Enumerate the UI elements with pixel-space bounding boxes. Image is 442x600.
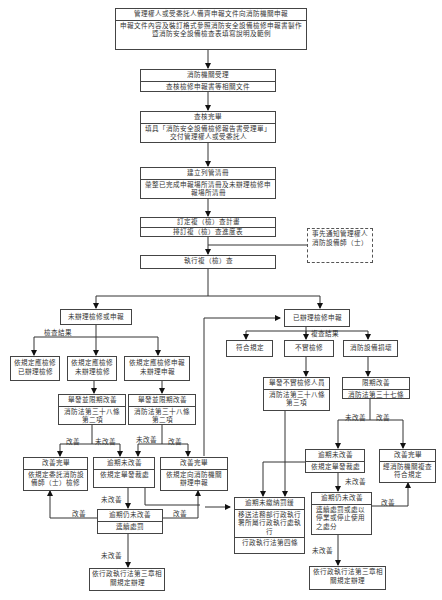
box-compliant: 符合規定 (226, 340, 273, 357)
box-title: 管理權人或受委託人備齊申報文件向消防機關申報 (116, 9, 306, 20)
box-equipment-damaged: 消防設備損壞 (343, 340, 398, 357)
box-cite-deadline-b: 舉發並限期改善 消防法第三十八條第二項 (58, 394, 126, 425)
box-title: 建立列管清冊 (141, 168, 275, 179)
box-body: 經消防機關複查符合規定 (380, 461, 435, 481)
box-improved-right: 改善完畢 經消防機關複查符合規定 (379, 449, 436, 483)
label-improved: 改善 (66, 438, 80, 446)
label-not-improved: 未改善 (345, 414, 366, 422)
box-title: 逾期未繳納罰鍰 (235, 498, 304, 509)
box-body: 消防法第三十八條第二項 (59, 406, 125, 426)
box-title: 逾期仍未改善 (312, 493, 371, 504)
label-improved: 改善 (168, 438, 182, 446)
box-improved-a: 改善完畢 依規定委託消防設備師（士）檢修 (23, 457, 88, 491)
label-inspection-result: 檢查結果 (44, 329, 72, 337)
box-body: 消防法第三十八條第二項 (129, 406, 195, 426)
box-body: 依規定舉發裁處 (306, 461, 364, 473)
box-submit-report: 管理權人或受委託人備齊申報文件向消防機關申報 申報文件內容及裝訂格式參照消防安全… (115, 8, 307, 50)
box-body: 依規定委託消防設備師（士）檢修 (24, 469, 87, 489)
label-improved: 改善 (376, 414, 390, 422)
label-not-improved: 未改善 (101, 496, 122, 504)
box-build-registry: 建立列管清冊 彙整已完成申報場所清冊及未辦理檢修申報場所清冊 (140, 167, 276, 199)
box-not-reported: 依規定應檢修申報未辦理申報 (124, 356, 190, 381)
label-not-improved: 未改善 (136, 436, 157, 444)
box-title: 消防機關受理 (141, 70, 275, 81)
box-inspection-plan: 訂定複（檢）查計畫 排訂複（檢）查進度表 (140, 217, 276, 237)
box-body: 依規定向消防機關辦理申報 (161, 469, 227, 489)
box-body: 彙整已完成申報場所清冊及未辦理檢修申報場所清冊 (141, 179, 275, 199)
box-body: 移送法務部行政執行署所屬行政執行處執行 (235, 509, 304, 538)
box-title: 舉發不實檢修人員 (264, 378, 329, 389)
box-not-inspected-required: 依規定應檢修未辦理檢修 (67, 356, 117, 381)
box-title: 舉發並限期改善 (59, 395, 125, 406)
label-improved: 改善 (173, 510, 187, 518)
box-cite-false-inspector: 舉發不實檢修人員 消防法第三十八條第三項 (263, 377, 330, 411)
box-not-inspected: 未辦理檢修或申報 (60, 309, 132, 325)
box-improved-c: 改善完畢 依規定向消防機關辦理申報 (160, 457, 228, 491)
box-review-complete: 查核完畢 填具「消防安全設備檢修報告書受理單」交付管理權人或受委託人 (140, 111, 276, 143)
box-deadline-improve: 限期改善 消防法第三十七條 (342, 377, 410, 399)
box-final-right: 依行政執行法第三章相關規定辦理 (309, 566, 386, 590)
box-title: 改善完畢 (161, 458, 227, 469)
box-title: 執行複（檢）查 (141, 256, 275, 267)
box-unpaid-fine: 逾期未繳納罰鍰 移送法務部行政執行署所屬行政執行處執行 行政執行法第四條 (234, 497, 305, 554)
box-body: 申報文件內容及裝訂格式參照消防安全設備檢修申報書製作暨消防安全設備檢查表填寫說明… (116, 20, 306, 40)
label-not-improved: 未改善 (101, 552, 122, 560)
box-inspected-reported: 已辦理檢修申報 (284, 309, 350, 327)
box-body: 依規定舉發裁處 (94, 469, 154, 481)
box-title: 限期改善 (343, 378, 409, 389)
box-title: 逾期未改善 (94, 458, 154, 469)
label-improved: 改善 (381, 499, 395, 507)
box-body: 事先通知管理權人消防設備師（士） (309, 230, 371, 247)
box-title: 改善完畢 (24, 458, 87, 469)
box-title: 逾期仍未改善 (98, 510, 162, 521)
box-body: 消防法第三十八條第三項 (264, 389, 329, 409)
box-overdue-right: 逾期未改善 依規定舉發裁處 (305, 449, 365, 473)
box-body: 消防法第三十七條 (343, 389, 409, 401)
box-title: 逾期未改善 (306, 450, 364, 461)
box-body: 排訂複（檢）查進度表 (141, 227, 275, 237)
box-overdue-left: 逾期未改善 依規定舉發裁處 (93, 457, 155, 488)
label-not-improved: 未改善 (345, 478, 366, 486)
box-title: 改善完畢 (380, 450, 435, 461)
label-not-improved: 未改善 (312, 547, 333, 555)
label-reinspection-result: 複查結果 (311, 330, 339, 338)
label-improved: 改善 (72, 510, 86, 518)
box-body: 連續處罰 (98, 521, 162, 533)
box-inspected-done: 依規定應檢修已辦理檢修 (10, 356, 60, 381)
box-fire-agency-accept: 消防機關受理 查核檢修申報書等相關文件 (140, 69, 276, 92)
box-advance-notice: 事先通知管理權人消防設備師（士） (307, 228, 373, 263)
box-footer: 行政執行法第四條 (235, 537, 304, 549)
box-still-overdue-left: 逾期仍未改善 連續處罰 (97, 509, 163, 534)
box-cite-deadline-c: 舉發並限期改善 消防法第三十八條第二項 (128, 394, 196, 425)
box-title: 舉發並限期改善 (129, 395, 195, 406)
box-body: 填具「消防安全設備檢修報告書受理單」交付管理權人或受委託人 (141, 123, 275, 143)
box-title: 訂定複（檢）查計畫 (141, 218, 275, 227)
box-false-inspection: 不實檢修 (284, 340, 334, 357)
label-not-improved: 未改善 (95, 438, 116, 446)
box-title: 查核完畢 (141, 112, 275, 123)
box-still-overdue-right: 逾期仍未改善 連續處罰或處以停業或停止使用之處分 (311, 492, 372, 535)
box-body: 連續處罰或處以停業或停止使用之處分 (312, 504, 371, 533)
box-body: 查核檢修申報書等相關文件 (141, 81, 275, 93)
box-final-left: 依行政執行法第三章相關規定辦理 (89, 568, 165, 591)
box-execute-inspection: 執行複（檢）查 (140, 255, 276, 269)
